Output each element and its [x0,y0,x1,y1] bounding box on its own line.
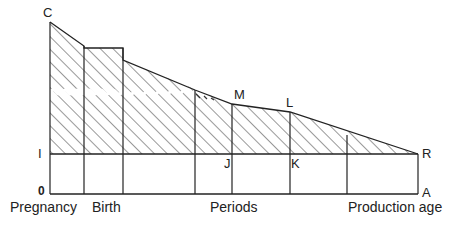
axis-label-birth: Birth [92,200,121,214]
point-label-r: R [422,147,431,160]
wavy-reference-line [50,90,206,94]
point-label-j: J [224,157,231,170]
point-label-i: I [38,147,42,160]
point-label-a: A [422,186,431,199]
axis-label-periods: Periods [210,200,257,214]
point-label-k: K [291,157,300,170]
point-label-m: M [234,88,245,101]
axis-label-production-age: Production age [348,200,442,214]
diagram-canvas [0,0,455,225]
point-label-c: C [43,6,52,19]
axis-label-pregnancy: Pregnancy [10,200,77,214]
cost-curve-diagram: C M L I J K R 0 A Pregnancy Birth Period… [0,0,455,225]
point-label-o: 0 [38,185,45,197]
point-label-l: L [286,96,293,109]
